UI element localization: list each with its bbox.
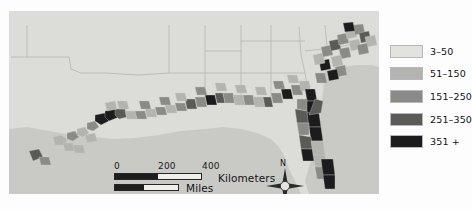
county-polygon[interactable] [295,109,309,123]
km-fill-light [158,174,201,179]
legend-row[interactable]: 151–250 [390,85,470,108]
county-polygon[interactable] [323,175,335,189]
map-panel[interactable]: 0200400 Kilometers Miles 0100200 N [9,11,379,194]
scale-bar-km-ticks: 0200400 [114,161,244,172]
legend-label: 251–350 [430,114,472,125]
county-polygon[interactable] [117,101,129,109]
scale-tick-label: 400 [202,161,220,171]
county-polygon[interactable] [175,93,187,101]
scale-bar: 0200400 Kilometers Miles 0100200 [114,161,244,194]
county-polygon[interactable] [343,22,355,32]
legend-swatch [390,45,423,58]
county-polygon[interactable] [287,75,299,83]
county-polygon[interactable] [139,101,151,109]
legend-label: 351 + [430,136,460,147]
county-polygon[interactable] [331,55,343,67]
county-polygon[interactable] [195,97,207,107]
legend-row[interactable]: 3–50 [390,40,470,63]
county-polygon[interactable] [255,87,267,95]
mi-fill-light [144,185,178,190]
legend-swatch [390,67,423,80]
mi-fill-dark [115,185,144,190]
county-polygon[interactable] [145,109,157,117]
legend-swatch [390,135,423,148]
compass-rose: N [265,159,305,194]
county-polygon[interactable] [175,103,187,111]
legend-label: 3–50 [430,46,453,57]
county-polygon[interactable] [215,83,227,91]
county-polygon[interactable] [297,123,309,135]
scale-bar-mi-row: Miles [114,184,244,193]
county-polygon[interactable] [63,143,75,151]
county-polygon[interactable] [73,145,85,153]
legend-row[interactable]: 351 + [390,130,470,153]
legend-label: 51–150 [430,68,466,79]
legend-label: 151–250 [430,91,472,102]
scale-bar-mi-label: Miles [186,182,213,194]
scale-tick-label: 0 [114,161,120,171]
map-figure: 0200400 Kilometers Miles 0100200 N [0,0,472,209]
county-polygon[interactable] [327,69,339,81]
county-polygon[interactable] [155,107,167,115]
county-polygon[interactable] [281,89,293,99]
county-polygon[interactable] [273,81,285,89]
county-polygon[interactable] [271,93,283,103]
county-polygon[interactable] [311,141,325,155]
county-polygon[interactable] [357,43,369,55]
county-polygon[interactable] [205,95,217,105]
county-polygon[interactable] [299,135,313,149]
compass-rose-icon [265,167,305,194]
legend-row[interactable]: 251–350 [390,108,470,131]
county-polygon[interactable] [223,93,235,103]
legend-swatch [390,90,423,103]
county-polygon[interactable] [235,85,247,93]
county-polygon[interactable] [195,87,207,95]
county-polygon[interactable] [243,95,255,105]
scale-bar-km-row: Kilometers [114,173,244,182]
legend-swatch [390,113,423,126]
legend: 3–5051–150151–250251–350351 + [390,40,470,153]
county-polygon[interactable] [297,99,307,111]
county-polygon[interactable] [165,105,177,113]
county-polygon[interactable] [85,133,97,143]
county-polygon[interactable] [315,73,327,83]
county-polygon[interactable] [39,157,51,165]
scale-tick-label: 200 [158,161,176,171]
county-polygon[interactable] [135,111,147,119]
county-polygon[interactable] [321,159,335,175]
county-polygon[interactable] [159,97,171,105]
legend-row[interactable]: 51–150 [390,63,470,86]
county-polygon[interactable] [105,101,117,111]
km-fill-dark [115,174,158,179]
